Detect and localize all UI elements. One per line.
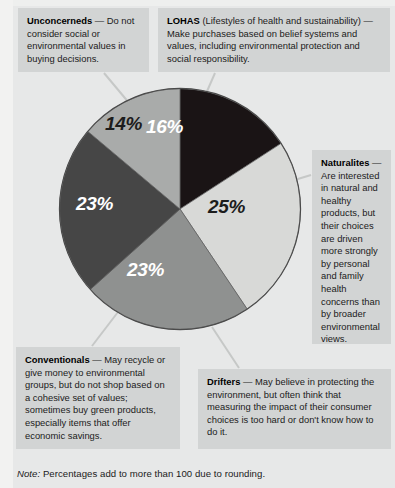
callout-body-naturalites: Are interested in natural and healthy pr… xyxy=(321,170,380,345)
callout-term-conventionals: Conventionals xyxy=(25,354,90,365)
callout-lohas: LOHAS (Lifestyles of health and sustaina… xyxy=(158,8,390,72)
callout-term-unconcerneds: Unconcerneds xyxy=(27,15,92,26)
callout-dash-conventionals: — xyxy=(90,354,105,365)
callout-body-lohas: Make purchases based on belief systems a… xyxy=(167,28,360,64)
callout-unconcerneds: Unconcerneds — Do not consider social or… xyxy=(18,8,149,72)
callout-dash-naturalites: — xyxy=(369,157,381,168)
pie-label-lohas: 16% xyxy=(146,116,183,138)
connector-line-drifters xyxy=(212,327,239,368)
pie-label-naturalites: 25% xyxy=(208,196,245,218)
pie-chart: 16% 25% 23% 23% 14% xyxy=(58,87,302,331)
infographic-page: 16% 25% 23% 23% 14% Unconcerneds — Do no… xyxy=(0,0,395,488)
callout-term-naturalites: Naturalites xyxy=(321,157,369,168)
footnote: Note: Percentages add to more than 100 d… xyxy=(17,468,265,479)
pie-label-unconcerneds: 14% xyxy=(105,113,142,135)
callout-term-lohas: LOHAS xyxy=(167,15,200,26)
callout-drifters: Drifters — May believe in protecting the… xyxy=(198,369,391,449)
pie-label-conventionals: 23% xyxy=(76,193,113,215)
callout-conventionals: Conventionals — May recycle or give mone… xyxy=(16,347,180,449)
footnote-text: Percentages add to more than 100 due to … xyxy=(40,468,265,479)
footnote-prefix: Note: xyxy=(17,468,40,479)
pie-label-drifters: 23% xyxy=(127,259,164,281)
callout-body-conventionals: May recycle or give money to environment… xyxy=(25,354,165,441)
callout-dash-drifters: — xyxy=(240,376,255,387)
callout-dash-lohas: — xyxy=(361,15,373,26)
callout-paren-lohas: (Lifestyles of health and sustainability… xyxy=(200,15,361,26)
callout-dash-unconcerneds: — xyxy=(92,15,107,26)
callout-term-drifters: Drifters xyxy=(207,376,240,387)
callout-naturalites: Naturalites — Are interested in natural … xyxy=(312,150,391,344)
